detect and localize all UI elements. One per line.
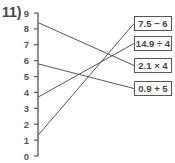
- axis-tick-label: 8: [24, 23, 29, 34]
- connection-line: [38, 24, 134, 136]
- expression-box: 2.1 × 4: [134, 58, 172, 73]
- connection-line: [38, 44, 134, 98]
- axis-tick-label: 2: [24, 119, 29, 130]
- axis-tick-label: 4: [24, 87, 30, 98]
- connection-line: [38, 23, 134, 66]
- axis-tick-label: 9: [24, 8, 29, 19]
- axis-tick-label: 6: [24, 55, 29, 66]
- axis-tick-label: 1: [24, 135, 30, 146]
- expression-box: 14.9 ÷ 4: [134, 36, 172, 51]
- expression-box: 7.5 − 6: [134, 16, 172, 31]
- connection-line: [38, 64, 134, 89]
- axis-tick-label: 0: [24, 151, 29, 162]
- axis-tick-label: 3: [24, 103, 29, 114]
- expression-box: 0.9 + 5: [134, 81, 172, 96]
- axis-tick-label: 5: [24, 71, 30, 82]
- axis-tick-label: 7: [24, 39, 29, 50]
